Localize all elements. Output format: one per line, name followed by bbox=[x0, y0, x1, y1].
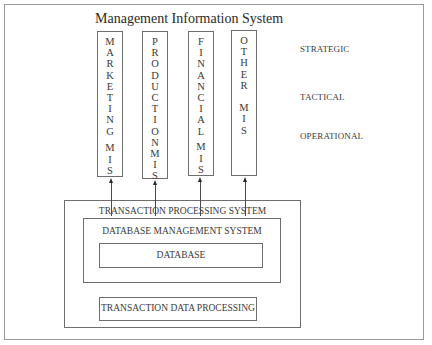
letter: O bbox=[151, 126, 159, 137]
letter: A bbox=[197, 114, 205, 125]
letter: F bbox=[198, 36, 204, 47]
letter: T bbox=[241, 46, 247, 57]
letter: L bbox=[198, 126, 204, 137]
letter: R bbox=[151, 47, 158, 58]
letter: O bbox=[240, 35, 248, 46]
database-box: DATABASE bbox=[99, 243, 263, 268]
diagram-title: Management Information System bbox=[95, 11, 283, 27]
letter: I bbox=[242, 113, 246, 124]
letter: M bbox=[105, 36, 114, 47]
letter: K bbox=[106, 70, 114, 81]
letter: S bbox=[198, 164, 204, 175]
letter: S bbox=[107, 165, 113, 176]
letter: N bbox=[197, 81, 205, 92]
letter: M bbox=[150, 148, 159, 159]
letter: M bbox=[105, 142, 114, 153]
letter: S bbox=[241, 125, 247, 136]
letter: N bbox=[197, 58, 205, 69]
letter: C bbox=[151, 92, 158, 103]
dbms-label: DATABASE MANAGEMENT SYSTEM bbox=[84, 226, 280, 236]
tactical-label: TACTICAL bbox=[300, 92, 345, 102]
letter: R bbox=[106, 58, 113, 69]
letter: M bbox=[239, 102, 248, 113]
letter: I bbox=[108, 103, 112, 114]
letter: P bbox=[152, 36, 158, 47]
letter: T bbox=[107, 92, 113, 103]
letter: C bbox=[197, 92, 204, 103]
operational-label: OPERATIONAL bbox=[300, 131, 363, 141]
arrow-head-icon bbox=[243, 177, 247, 182]
letter: A bbox=[197, 70, 205, 81]
letter: T bbox=[152, 103, 158, 114]
letter: O bbox=[151, 58, 159, 69]
arrow-head-icon bbox=[109, 178, 113, 183]
other-mis-box: O T H E R M I S bbox=[231, 30, 257, 176]
tps-label: TRANSACTION PROCESSING SYSTEM bbox=[65, 206, 300, 216]
letter: M bbox=[196, 141, 205, 152]
letter: I bbox=[199, 47, 203, 58]
letter: G bbox=[106, 126, 114, 137]
letter: N bbox=[151, 137, 159, 148]
arrow-to-production bbox=[155, 184, 156, 216]
letter: U bbox=[151, 81, 159, 92]
arrow-to-financial bbox=[200, 181, 201, 216]
letter: N bbox=[106, 114, 114, 125]
letter: E bbox=[241, 69, 247, 80]
arrow-head-icon bbox=[198, 177, 202, 182]
letter: H bbox=[240, 57, 248, 68]
letter: I bbox=[108, 154, 112, 165]
database-label: DATABASE bbox=[100, 250, 262, 260]
tdp-box: TRANSACTION DATA PROCESSING bbox=[99, 297, 257, 321]
letter: I bbox=[153, 114, 157, 125]
production-mis-box: P R O D U C T I O N M I S bbox=[142, 31, 168, 179]
arrow-to-other bbox=[245, 181, 246, 216]
letter: I bbox=[199, 153, 203, 164]
marketing-mis-box: M A R K E T I N G M I S bbox=[97, 31, 123, 177]
arrow-to-marketing bbox=[111, 182, 112, 216]
letter: I bbox=[199, 103, 203, 114]
letter: I bbox=[153, 159, 157, 170]
tdp-label: TRANSACTION DATA PROCESSING bbox=[100, 303, 256, 313]
strategic-label: STRATEGIC bbox=[300, 44, 349, 54]
letter: R bbox=[240, 80, 247, 91]
financial-mis-box: F I N A N C I A L M I S bbox=[188, 31, 214, 176]
letter: E bbox=[107, 81, 113, 92]
letter: A bbox=[106, 47, 114, 58]
letter: D bbox=[151, 70, 159, 81]
arrow-head-icon bbox=[153, 180, 157, 185]
